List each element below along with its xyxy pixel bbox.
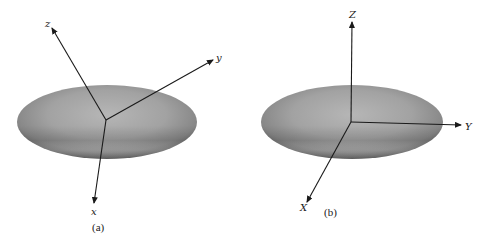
panel-b: Z Y X (b) — [261, 9, 473, 219]
axis-label-x-a: x — [91, 206, 97, 217]
caption-a: (a) — [92, 221, 105, 234]
ellipsoid-axes-diagram: z y x (a) Z Y X (b) — [0, 0, 491, 243]
ellipsoid-a-shading — [17, 85, 197, 159]
panel-a: z y x (a) — [17, 18, 222, 234]
axis-label-X-b: X — [299, 202, 308, 213]
axis-label-y-a: y — [215, 52, 222, 63]
axis-label-Z-b: Z — [348, 9, 357, 20]
axis-label-z-a: z — [44, 18, 51, 29]
axis-label-Y-b: Y — [465, 121, 473, 132]
caption-b: (b) — [324, 206, 337, 219]
